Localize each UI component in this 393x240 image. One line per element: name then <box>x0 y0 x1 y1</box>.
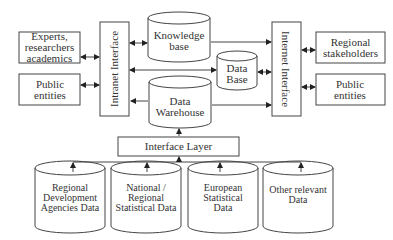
data-warehouse-label: Data Warehouse <box>151 92 209 122</box>
internet-interface-label: Internet Interface <box>272 22 301 116</box>
source-other-label: Other relevant Data <box>264 180 332 210</box>
source-national-regional-label: National / Regional Statistical Data <box>112 180 180 216</box>
public-entities-right-label: Public entities <box>325 74 375 105</box>
interface-layer-label: Interface Layer <box>118 137 239 156</box>
intranet-interface-label: Intranet Interface <box>100 22 129 116</box>
knowledge-base-label: Knowledge base <box>150 26 208 56</box>
experts-label: Experts, researchers academics <box>19 32 80 63</box>
source-european-label: European Statistical Data <box>194 180 252 216</box>
data-base-label: Data Base <box>220 62 254 86</box>
regional-stakeholders-label: Regional stakeholders <box>316 32 385 63</box>
public-entities-left-label: Public entities <box>25 74 75 105</box>
source-regional-development-label: Regional Development Agencies Data <box>36 180 104 216</box>
